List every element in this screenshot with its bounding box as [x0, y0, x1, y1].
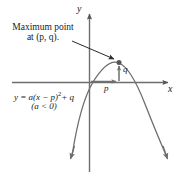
- maximum-point-line-2: at (p, q).: [6, 33, 80, 43]
- equation-condition: (a < 0): [2, 102, 86, 111]
- vertex-point: [117, 60, 122, 65]
- leader-line: [72, 41, 114, 59]
- equation-annotation: y = a(x − p)2+ q (a < 0): [2, 93, 86, 112]
- x-axis-label: x: [168, 84, 172, 95]
- maximum-point-annotation: Maximum point at (p, q).: [6, 23, 80, 43]
- p-measure-label: p: [104, 84, 109, 93]
- parabola-left-arrow: [71, 146, 75, 159]
- parabola-figure: Maximum point at (p, q). y = a(x − p)2+ …: [0, 0, 182, 184]
- y-axis-label: y: [77, 4, 81, 15]
- q-measure-label: q: [123, 65, 128, 74]
- parabola-right-arrow: [163, 146, 168, 159]
- equation-tail: + q: [61, 92, 74, 102]
